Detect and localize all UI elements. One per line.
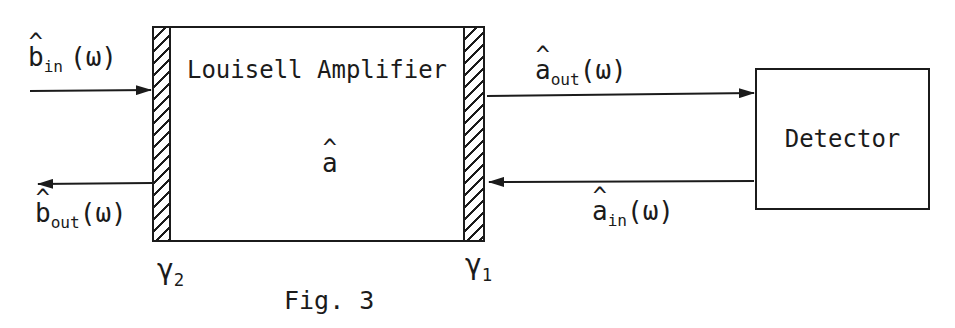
mirror-gamma2-hatched <box>152 26 171 242</box>
a-in-label: ^ain(ω) <box>592 198 674 224</box>
hat-accent: ^ <box>593 185 607 208</box>
b-out-label: ^bout(ω) <box>35 200 127 226</box>
amplifier-label: Louisell Amplifier <box>171 58 463 82</box>
figure-caption: Fig. 3 <box>284 288 374 313</box>
b-in-arrow <box>30 90 151 91</box>
a-in-arrow <box>489 181 754 182</box>
amplifier-box: Louisell Amplifier <box>152 26 485 242</box>
hat-accent: ^ <box>323 137 337 160</box>
figure-3-diagram: Louisell Amplifier Detector ^bin(ω) ^bou… <box>0 0 955 328</box>
hat-accent: ^ <box>536 44 550 67</box>
gamma1-label: γ1 <box>465 251 492 279</box>
a-out-arrow <box>487 93 754 96</box>
b-in-label: ^bin(ω) <box>28 44 117 70</box>
detector-label: Detector <box>785 125 901 153</box>
cavity-mode-label: ^a <box>322 150 338 176</box>
gamma2-label: γ2 <box>157 256 184 284</box>
detector-box: Detector <box>755 68 930 210</box>
a-out-label: ^aout(ω) <box>535 57 627 83</box>
hat-accent: ^ <box>29 31 43 54</box>
mirror-gamma1-hatched <box>463 26 485 242</box>
hat-accent: ^ <box>36 187 50 210</box>
b-out-arrow <box>38 183 152 184</box>
